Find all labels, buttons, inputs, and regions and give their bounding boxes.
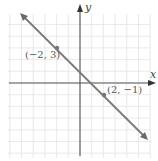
y-axis-arrow-icon <box>77 4 83 12</box>
y-axis <box>77 4 83 156</box>
coordinate-plane: (−2, 3) (2, −1) x y <box>0 0 158 161</box>
x-axis-label: x <box>150 68 157 81</box>
point-a-label: (−2, 3) <box>25 49 60 60</box>
y-axis-label: y <box>84 1 92 14</box>
point-b-label: (2, −1) <box>107 84 142 95</box>
point-b <box>102 93 106 97</box>
data-line <box>20 13 148 140</box>
